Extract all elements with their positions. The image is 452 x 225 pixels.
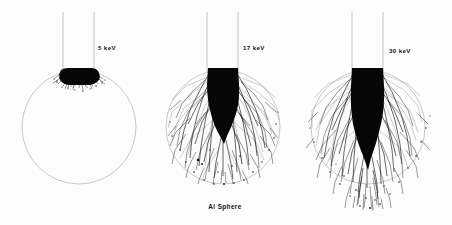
figure-canvas: 5 keV (0, 0, 452, 225)
figure-caption: Al Sphere (208, 203, 241, 211)
panel-label-30kev: 30 keV (389, 47, 411, 54)
panel-label-5kev: 5 keV (98, 44, 116, 51)
trajectory-figure: 5 keV (0, 0, 452, 225)
panel-label-17kev: 17 keV (243, 44, 265, 51)
